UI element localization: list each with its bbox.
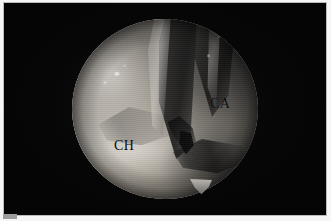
annotation-label-ch: CH [114,139,134,153]
tissue-shadow-bottom-right [154,125,259,200]
light-reflection-speck [207,54,210,57]
annotation-label-ca: CA [210,97,230,111]
corner-registration-mark [3,214,17,219]
photograph-frame: CA CH [4,3,326,215]
light-reflection-speck [218,36,220,38]
light-reflection-speck [103,81,106,84]
figure-root: CA CH [0,0,331,221]
tissue-shadow-upper-right [145,17,260,141]
endoscopic-field-of-view [70,17,259,200]
